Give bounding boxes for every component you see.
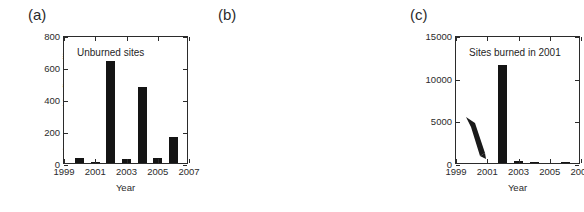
- panel-c: (c) Sites burned in 2004 199920012003200…: [388, 0, 583, 212]
- panel-b-label: (b): [218, 6, 236, 23]
- y-tick-mark-right: [183, 37, 187, 38]
- x-tick-mark-top: [189, 37, 190, 41]
- x-tick-mark-top: [127, 37, 128, 41]
- x-tick-label: 2005: [147, 167, 168, 177]
- figure-three-panel-bar-charts: (a) First-year white fir seedlings (×10 …: [0, 0, 584, 212]
- y-tick-mark-right: [183, 69, 187, 70]
- bar: [106, 61, 115, 163]
- bar: [75, 158, 84, 163]
- x-tick-mark-top: [95, 37, 96, 41]
- y-tick-mark-right: [183, 133, 187, 134]
- x-tick-label: 2001: [85, 167, 106, 177]
- y-tick-label: 0: [55, 160, 60, 170]
- x-tick-mark: [127, 159, 128, 163]
- panel-a: (a) First-year white fir seedlings (×10 …: [0, 0, 195, 212]
- panel-a-label: (a): [28, 6, 46, 23]
- y-tick-mark: [64, 101, 68, 102]
- x-tick-mark-top: [158, 37, 159, 41]
- panel-a-plot-area: First-year white fir seedlings (×10 / ha…: [63, 36, 188, 164]
- y-tick-label: 200: [44, 128, 60, 138]
- x-tick-mark: [95, 159, 96, 163]
- bar: [169, 137, 178, 163]
- y-tick-mark-right: [183, 165, 187, 166]
- y-tick-label: 600: [44, 64, 60, 74]
- panel-a-x-axis-label: Year: [63, 182, 188, 193]
- panel-a-bars: [64, 37, 187, 163]
- y-tick-label: 400: [44, 96, 60, 106]
- panel-b: (b) Sites burned in 2001 199920012003200…: [196, 0, 391, 212]
- bar: [138, 87, 147, 163]
- x-tick-mark: [189, 159, 190, 163]
- y-tick-mark: [64, 69, 68, 70]
- panel-a-plot-frame: Unburned sites 1999200120032005200702004…: [63, 36, 188, 164]
- y-tick-mark-right: [183, 101, 187, 102]
- y-tick-mark: [64, 165, 68, 166]
- y-tick-label: 800: [44, 32, 60, 42]
- x-tick-mark: [64, 159, 65, 163]
- y-tick-mark: [64, 37, 68, 38]
- y-tick-mark: [64, 133, 68, 134]
- panel-c-label: (c): [410, 6, 428, 23]
- x-tick-label: 2003: [116, 167, 137, 177]
- x-tick-mark: [158, 159, 159, 163]
